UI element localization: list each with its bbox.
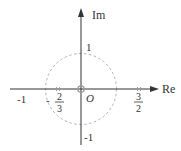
pole-label-numerator: 3: [136, 91, 141, 102]
real-axis-arrow-icon: [150, 86, 159, 92]
origin-label: O: [86, 92, 94, 104]
tick-label-imag-pos-one: 1: [86, 41, 92, 53]
pole-label-denominator: 2: [136, 103, 141, 114]
imag-axis-label: Im: [92, 8, 106, 22]
tick-label-real-neg-one: -1: [17, 93, 26, 105]
pole-label-sign: -: [46, 94, 50, 106]
tick-label-imag-neg-one: -1: [84, 131, 93, 143]
real-axis-label: Re: [162, 82, 175, 96]
complex-plane-diagram: Im Re O -1 1 -1 - 2 3 3 2: [0, 0, 181, 151]
pole-label-denominator: 3: [57, 103, 62, 114]
imag-axis-arrow-icon: [78, 8, 84, 17]
pole-label-numerator: 2: [57, 91, 62, 102]
